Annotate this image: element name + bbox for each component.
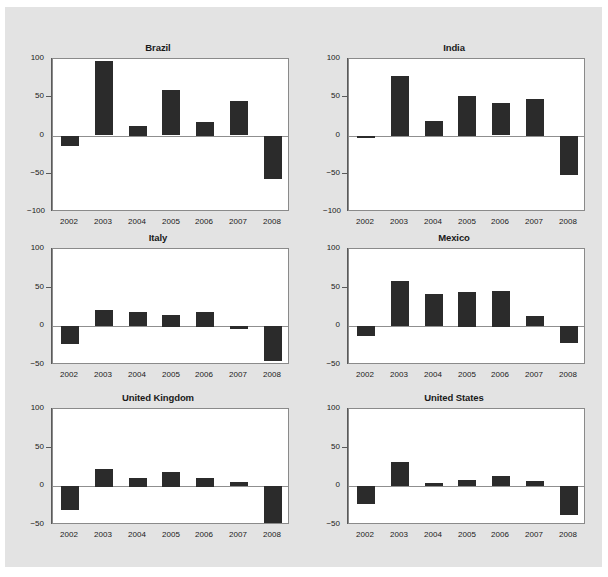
y-tick-label: 0 (323, 481, 340, 489)
x-tick-label: 2007 (518, 218, 550, 226)
chart-panel-india: India−100−500501002002200320042005200620… (323, 42, 585, 235)
y-axis-spine (347, 248, 348, 364)
bar-2008 (264, 486, 282, 524)
bar-2006 (492, 103, 510, 135)
x-tick-label: 2004 (121, 531, 153, 539)
y-axis-spine (347, 58, 348, 211)
panel-title: United Kingdom (27, 392, 289, 403)
x-tick-label: 2008 (552, 531, 584, 539)
x-tick-label: 2004 (121, 218, 153, 226)
y-tick-label: −50 (27, 169, 44, 177)
x-tick-label: 2008 (552, 218, 584, 226)
y-tick-label: 100 (323, 54, 340, 62)
y-tick-label: 0 (27, 481, 44, 489)
figure-canvas: Brazil−100−50050100200220032004200520062… (5, 7, 602, 567)
x-tick-label: 2002 (349, 531, 381, 539)
bar-2007 (230, 101, 248, 135)
panel-title: Brazil (27, 42, 289, 53)
bar-2005 (162, 315, 180, 327)
y-axis-spine (51, 408, 52, 524)
y-tick-mark (342, 96, 348, 97)
y-tick-label: 50 (323, 92, 340, 100)
bar-2008 (560, 326, 578, 343)
x-tick-label: 2002 (53, 531, 85, 539)
bar-2005 (458, 292, 476, 327)
bar-2004 (129, 126, 147, 136)
y-tick-mark (46, 173, 52, 174)
y-tick-label: −100 (27, 207, 44, 215)
x-tick-label: 2004 (417, 218, 449, 226)
y-tick-label: −100 (323, 207, 340, 215)
x-tick-label: 2007 (222, 531, 254, 539)
y-axis-spine (347, 408, 348, 524)
bar-2003 (95, 61, 113, 135)
bar-2008 (264, 136, 282, 179)
y-tick-label: 100 (323, 244, 340, 252)
y-tick-mark (342, 447, 348, 448)
y-tick-label: 50 (27, 92, 44, 100)
bar-2006 (196, 122, 214, 136)
bar-2007 (526, 481, 544, 486)
x-tick-label: 2007 (518, 371, 550, 379)
panel-title: India (323, 42, 585, 53)
small-multiples-grid: Brazil−100−50050100200220032004200520062… (5, 7, 602, 567)
bar-2007 (230, 482, 248, 486)
x-tick-label: 2005 (451, 531, 483, 539)
plot-area (348, 58, 585, 211)
x-tick-label: 2003 (383, 371, 415, 379)
bar-2008 (264, 326, 282, 361)
x-tick-label: 2005 (155, 371, 187, 379)
x-tick-label: 2007 (222, 371, 254, 379)
x-tick-label: 2003 (87, 218, 119, 226)
bar-2002 (61, 136, 79, 146)
y-tick-label: 50 (323, 283, 340, 291)
x-tick-label: 2007 (222, 218, 254, 226)
x-tick-label: 2003 (87, 371, 119, 379)
bar-2002 (61, 326, 79, 344)
y-axis-spine (51, 58, 52, 211)
plot-area (52, 248, 289, 364)
bar-2006 (492, 291, 510, 327)
y-axis-spine (51, 248, 52, 364)
x-tick-label: 2003 (87, 531, 119, 539)
y-tick-label: 0 (27, 321, 44, 329)
bar-2002 (357, 136, 375, 138)
y-tick-label: 100 (27, 244, 44, 252)
x-tick-label: 2002 (53, 218, 85, 226)
bar-2002 (357, 326, 375, 336)
y-tick-label: −50 (27, 520, 44, 528)
plot-area (348, 248, 585, 364)
bar-2004 (425, 121, 443, 136)
bar-2007 (230, 326, 248, 329)
bar-2003 (391, 281, 409, 326)
chart-panel-united-states: United States−50050100200220032004200520… (323, 392, 585, 548)
y-tick-mark (46, 287, 52, 288)
y-tick-label: 50 (27, 443, 44, 451)
x-tick-label: 2004 (121, 371, 153, 379)
y-tick-mark (46, 447, 52, 448)
bar-2003 (95, 469, 113, 487)
bar-2005 (458, 480, 476, 486)
bar-2003 (391, 76, 409, 136)
x-tick-label: 2008 (552, 371, 584, 379)
bar-2004 (129, 312, 147, 326)
x-tick-label: 2005 (451, 218, 483, 226)
zero-baseline (349, 486, 585, 487)
bar-2005 (458, 96, 476, 136)
bar-2003 (95, 310, 113, 326)
y-tick-label: −50 (323, 169, 340, 177)
y-tick-label: 100 (27, 54, 44, 62)
chart-panel-italy: Italy−5005010020022003200420052006200720… (27, 232, 289, 388)
plot-area (52, 408, 289, 524)
bar-2003 (391, 462, 409, 486)
y-tick-label: 0 (323, 321, 340, 329)
bar-2004 (425, 483, 443, 486)
panel-title: Mexico (323, 232, 585, 243)
x-tick-label: 2003 (383, 218, 415, 226)
bar-2005 (162, 472, 180, 487)
bar-2004 (425, 294, 443, 326)
y-tick-label: 0 (323, 131, 340, 139)
y-tick-label: −50 (27, 360, 44, 368)
y-tick-mark (342, 173, 348, 174)
x-tick-label: 2004 (417, 531, 449, 539)
